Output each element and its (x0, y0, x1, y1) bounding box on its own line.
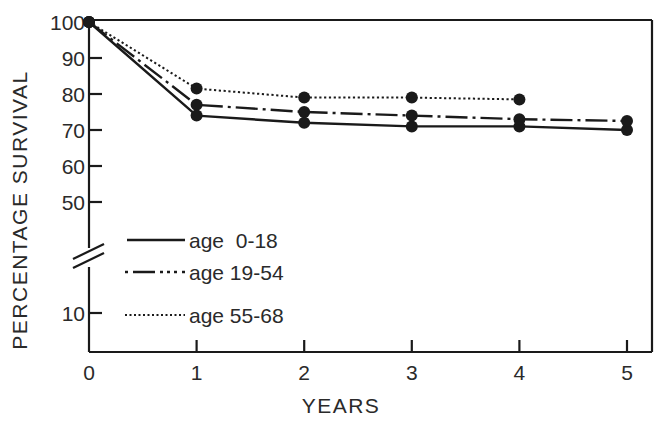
data-point (621, 115, 633, 127)
series-line (89, 22, 627, 121)
legend-item-age-19-54: age 19-54 (125, 261, 284, 284)
x-tick-label: 2 (298, 361, 310, 384)
x-axis-label: YEARS (302, 394, 381, 417)
x-tick-label: 3 (406, 361, 418, 384)
x-tick-label: 1 (191, 361, 203, 384)
data-point (298, 117, 310, 129)
data-point (191, 110, 203, 122)
x-tick-label: 4 (514, 361, 526, 384)
data-point (191, 99, 203, 111)
series-age-0-18 (83, 16, 633, 136)
x-axis-ticks: 012345 (83, 340, 633, 384)
legend-item-age-55-68: age 55-68 (125, 304, 284, 327)
legend-label: age 0-18 (189, 229, 278, 252)
data-point (513, 93, 525, 105)
survival-chart: 100908070605010 012345 age 0-18 age 19-5… (0, 0, 662, 427)
data-point (191, 83, 203, 95)
y-tick-label: 70 (62, 119, 85, 142)
data-point (406, 92, 418, 104)
data-point (406, 110, 418, 122)
series-age-19-54 (83, 16, 633, 127)
y-tick-label: 60 (62, 155, 85, 178)
data-point (298, 92, 310, 104)
y-tick-label: 10 (62, 302, 85, 325)
y-tick-label: 100 (50, 11, 85, 34)
legend-label: age 55-68 (189, 304, 284, 327)
y-axis-label: PERCENTAGE SURVIVAL (8, 70, 31, 349)
x-tick-label: 0 (83, 361, 95, 384)
plot-frame (89, 20, 652, 352)
y-tick-label: 80 (62, 83, 85, 106)
series-line (89, 22, 519, 99)
data-series (83, 16, 633, 136)
y-tick-label: 90 (62, 47, 85, 70)
data-point (83, 16, 95, 28)
data-point (298, 106, 310, 118)
data-point (513, 113, 525, 125)
legend-label: age 19-54 (189, 261, 284, 284)
series-age-55-68 (83, 16, 525, 105)
legend: age 0-18 age 19-54 age 55-68 (125, 229, 284, 327)
data-point (406, 120, 418, 132)
legend-item-age-0-18: age 0-18 (127, 229, 278, 252)
x-tick-label: 5 (621, 361, 633, 384)
y-axis-ticks: 100908070605010 (50, 11, 102, 325)
y-tick-label: 50 (62, 191, 85, 214)
